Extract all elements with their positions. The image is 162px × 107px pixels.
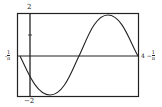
x-min-denominator: π [7,56,10,61]
y-max-label: 2 [27,4,31,11]
chart-plot [0,0,162,107]
x-min-fraction: 1π [7,50,10,61]
y-min-label: −2 [24,98,34,105]
x-min-label: -1π [5,50,10,61]
x-max-fraction: 1π [152,50,155,61]
x-max-denominator: π [152,56,155,61]
x-max-label: 4 −1π [141,50,155,61]
x-max-prefix: 4 − [141,52,152,59]
sine-curve [20,15,138,95]
plot-frame [18,14,139,97]
